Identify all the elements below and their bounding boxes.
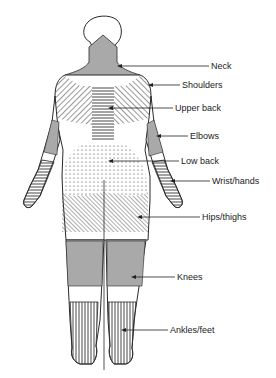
- label-ankles-feet: Ankles/feet: [170, 325, 215, 335]
- body-diagram: [0, 0, 276, 378]
- region-upper-back: [92, 86, 114, 140]
- label-shoulders: Shoulders: [182, 80, 223, 90]
- label-elbows: Elbows: [190, 131, 219, 141]
- label-wrist-hands: Wrist/hands: [212, 176, 259, 186]
- label-knees: Knees: [177, 272, 203, 282]
- label-hips-thighs: Hips/thighs: [202, 212, 247, 222]
- region-ankles-feet: [70, 302, 136, 364]
- region-knees: [66, 241, 145, 286]
- label-low-back: Low back: [181, 156, 219, 166]
- label-upper-back: Upper back: [175, 103, 221, 113]
- label-neck: Neck: [211, 61, 232, 71]
